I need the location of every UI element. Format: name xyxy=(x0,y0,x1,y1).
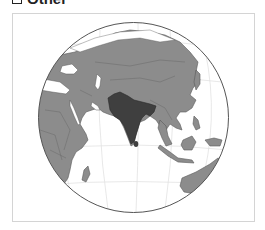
sri-lanka xyxy=(134,141,139,147)
globe-map xyxy=(0,0,265,230)
